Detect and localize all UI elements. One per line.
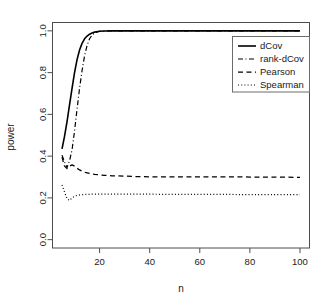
x-tick-label: 20 <box>94 256 105 267</box>
x-axis-title: n <box>178 283 184 294</box>
y-tick-label: 0.8 <box>37 66 48 79</box>
power-curve-figure: 0.00.20.40.60.81.0 20406080100 power n d… <box>0 0 329 303</box>
legend-label-spearman: Spearman <box>260 79 304 90</box>
legend-label-dcov: dCov <box>260 40 282 51</box>
x-tick-label: 60 <box>194 256 205 267</box>
y-tick-label: 0.4 <box>37 150 48 163</box>
legend-label-pearson: Pearson <box>260 66 295 77</box>
x-tick-label: 100 <box>292 256 308 267</box>
legend: dCovrank-dCovPearsonSpearman <box>233 37 310 93</box>
y-tick-label: 1.0 <box>37 24 48 37</box>
x-tick-label: 40 <box>144 256 155 267</box>
legend-label-rank-dcov: rank-dCov <box>260 53 304 64</box>
x-tick-label: 80 <box>245 256 256 267</box>
y-tick-label: 0.2 <box>37 191 48 204</box>
y-tick-label: 0.0 <box>37 233 48 246</box>
y-tick-label: 0.6 <box>37 108 48 121</box>
y-axis-title: power <box>5 123 16 151</box>
chart-canvas: 0.00.20.40.60.81.0 20406080100 power n d… <box>0 0 329 303</box>
